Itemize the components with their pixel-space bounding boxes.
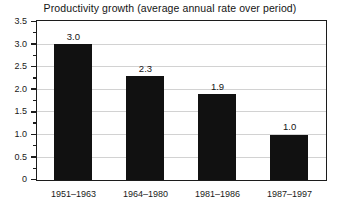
y-tick-label: 2.5 xyxy=(0,62,27,71)
x-tick-label: 1981–1986 xyxy=(178,190,258,199)
productivity-growth-bar-chart: Productivity growth (average annual rate… xyxy=(0,0,340,214)
x-tick-label: 1964–1980 xyxy=(105,190,185,199)
y-tick-label: 3.5 xyxy=(0,17,27,26)
y-tick-label: 2.0 xyxy=(0,85,27,94)
bar-value-label: 2.3 xyxy=(120,64,170,74)
plot-area xyxy=(36,20,327,181)
bar xyxy=(54,44,92,180)
bar xyxy=(270,135,308,180)
bar xyxy=(126,76,164,180)
bar-value-label: 3.0 xyxy=(48,32,98,42)
bar-value-label: 1.0 xyxy=(265,122,315,132)
y-tick-label: 1.0 xyxy=(0,130,27,139)
bar xyxy=(198,94,236,180)
y-tick-label: 3.0 xyxy=(0,40,27,49)
y-tick-label: 0 xyxy=(0,175,27,184)
chart-title: Productivity growth (average annual rate… xyxy=(0,2,340,14)
x-tick-label: 1987–1997 xyxy=(250,190,330,199)
y-tick-label: 1.5 xyxy=(0,107,27,116)
y-tick-label: 0.5 xyxy=(0,153,27,162)
bar-value-label: 1.9 xyxy=(193,82,243,92)
x-tick-label: 1951–1963 xyxy=(33,190,113,199)
